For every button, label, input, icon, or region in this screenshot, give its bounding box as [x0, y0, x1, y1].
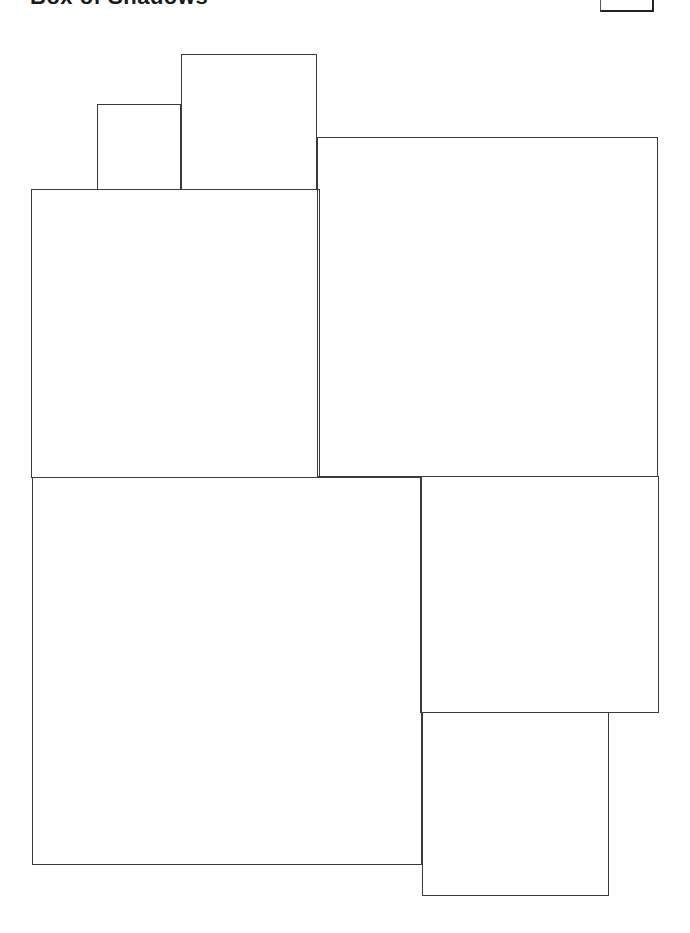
rectangle-lower-right-medium: [420, 476, 659, 713]
diagram-canvas: [0, 0, 690, 933]
rectangle-small-top-left: [97, 104, 181, 190]
rectangle-upper-right-large: [317, 137, 658, 477]
rectangle-lower-left-large: [32, 477, 422, 865]
rectangle-tall-top-middle: [181, 54, 317, 190]
rectangle-upper-left-large: [31, 189, 320, 478]
rectangle-bottom-right-small: [422, 712, 609, 896]
